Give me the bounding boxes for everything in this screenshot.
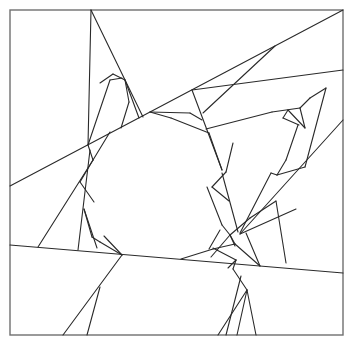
diagram-frame <box>10 10 343 335</box>
geometric-diagram <box>0 0 353 345</box>
